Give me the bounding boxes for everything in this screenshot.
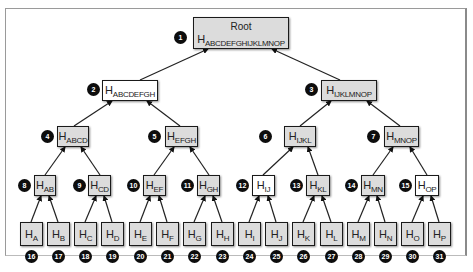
hash-prefix: H <box>79 228 87 240</box>
hash-subscript: L <box>333 234 337 243</box>
root-title: Root <box>230 22 251 32</box>
root-node: Root HABCDEFGHIJKLMNOP <box>193 17 289 49</box>
hash-prefix: H <box>257 179 265 191</box>
node-h-efgh: HEFGH <box>165 126 198 147</box>
hash-subscript: AB <box>44 185 54 194</box>
badge-11: 11 <box>181 179 194 192</box>
badge-25: 25 <box>270 250 283 263</box>
hash-subscript: I <box>252 234 254 243</box>
hash-subscript: H <box>224 234 229 243</box>
badge-2: 2 <box>87 83 100 96</box>
badge-13: 13 <box>290 179 303 192</box>
hash-prefix: H <box>105 84 113 96</box>
node-h-ijkl: HIJKL <box>284 126 316 147</box>
leaf-node-h-d: HD <box>101 222 124 246</box>
hash-subscript: E <box>142 234 147 243</box>
badge-30: 30 <box>406 250 419 263</box>
hash-subscript: O <box>413 234 419 243</box>
badge-17: 17 <box>52 250 65 263</box>
hash-prefix: H <box>216 228 224 240</box>
node-h-abcd: HABCD <box>57 126 89 147</box>
hash-subscript: ABCDEFGHIJKLMNOP <box>205 39 285 48</box>
leaf-node-h-n: HN <box>374 222 397 246</box>
hash-subscript: EF <box>154 185 164 194</box>
hash-subscript: ABCDEFGH <box>113 90 155 99</box>
node-h-gh: HGH <box>197 175 220 196</box>
badge-15: 15 <box>399 179 412 192</box>
hash-prefix: H <box>199 179 207 191</box>
hash-subscript: GH <box>207 185 218 194</box>
badge-8: 8 <box>18 179 31 192</box>
leaf-node-h-g: HG <box>183 222 206 246</box>
badge-23: 23 <box>216 250 229 263</box>
node-h-abcdefgh: HABCDEFGH <box>102 80 158 101</box>
hash-subscript: J <box>279 234 283 243</box>
hash-subscript: F <box>169 234 174 243</box>
hash-subscript: IJ <box>265 185 271 194</box>
badge-7: 7 <box>367 130 380 143</box>
leaf-node-h-b: HB <box>47 222 70 246</box>
hash-subscript: N <box>387 234 392 243</box>
badge-1: 1 <box>174 31 187 44</box>
leaf-node-h-j: HJ <box>265 222 288 246</box>
node-h-ijklmnop: HIJKLMNOP <box>321 80 377 101</box>
hash-subscript: IJKLMNOP <box>334 90 372 99</box>
hash-prefix: H <box>106 228 114 240</box>
node-h-ij: HIJ <box>252 175 275 196</box>
hash-subscript: KL <box>317 185 326 194</box>
node-h-ab: HAB <box>34 175 56 196</box>
leaf-node-h-c: HC <box>74 222 97 246</box>
hash-subscript: ABCD <box>66 136 87 145</box>
badge-28: 28 <box>352 250 365 263</box>
hash-subscript: EFGH <box>175 136 196 145</box>
badge-18: 18 <box>79 250 92 263</box>
badge-31: 31 <box>433 250 446 263</box>
badge-12: 12 <box>236 179 249 192</box>
node-h-op: HOP <box>415 175 439 196</box>
hash-prefix: H <box>52 228 60 240</box>
node-h-mnop: HMNOP <box>384 126 419 147</box>
hash-prefix: H <box>167 130 175 142</box>
leaf-node-h-m: HM <box>347 222 370 246</box>
node-h-mn: HMN <box>361 175 385 196</box>
hash-prefix: H <box>297 228 305 240</box>
node-h-cd: HCD <box>88 175 111 196</box>
leaf-node-h-f: HF <box>156 222 179 246</box>
hash-prefix: H <box>134 228 142 240</box>
hash-subscript: CD <box>98 185 109 194</box>
badge-9: 9 <box>73 179 86 192</box>
badge-14: 14 <box>345 179 358 192</box>
badge-16: 16 <box>25 250 38 263</box>
hash-subscript: P <box>441 234 446 243</box>
hash-prefix: H <box>433 228 441 240</box>
leaf-node-h-e: HE <box>129 222 152 246</box>
leaf-node-h-l: HL <box>320 222 343 246</box>
hash-subscript: IJKL <box>296 136 311 145</box>
hash-subscript: A <box>33 234 38 243</box>
hash-subscript: K <box>305 234 310 243</box>
hash-prefix: H <box>90 179 98 191</box>
hash-prefix: H <box>36 179 44 191</box>
badge-21: 21 <box>161 250 174 263</box>
hash-subscript: G <box>195 234 201 243</box>
badge-29: 29 <box>379 250 392 263</box>
hash-subscript: C <box>87 234 92 243</box>
hash-prefix: H <box>146 179 154 191</box>
leaf-node-h-k: HK <box>292 222 315 246</box>
hash-subscript: M <box>359 234 365 243</box>
badge-20: 20 <box>134 250 147 263</box>
hash-prefix: H <box>197 33 205 45</box>
node-h-kl: HKL <box>306 175 330 196</box>
leaf-node-h-a: HA <box>20 222 43 246</box>
node-h-ef: HEF <box>143 175 166 196</box>
hash-subscript: MN <box>371 185 383 194</box>
hash-prefix: H <box>271 228 279 240</box>
hash-prefix: H <box>25 228 33 240</box>
badge-5: 5 <box>148 130 161 143</box>
hash-prefix: H <box>161 228 169 240</box>
hash-subscript: D <box>114 234 119 243</box>
badge-26: 26 <box>297 250 310 263</box>
hash-subscript: OP <box>425 185 436 194</box>
badge-6: 6 <box>259 130 272 143</box>
badge-3: 3 <box>305 83 318 96</box>
